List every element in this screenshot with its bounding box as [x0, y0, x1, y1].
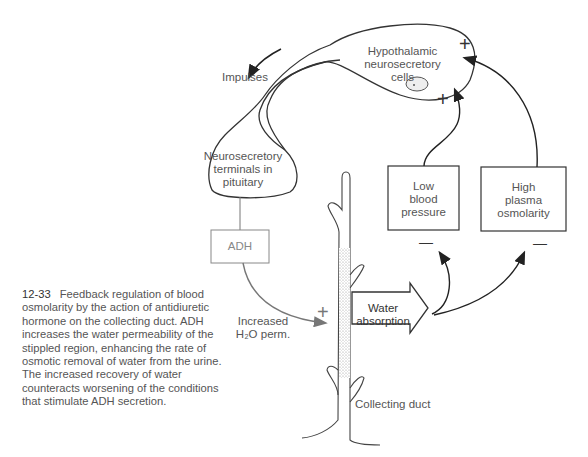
- figure-caption: 12-33 Feedback regulation of blood osmol…: [22, 288, 227, 409]
- stippled-region: [339, 248, 350, 378]
- terminals-line-3: pituitary: [203, 176, 283, 189]
- plus-sign-adh: +: [317, 302, 329, 322]
- hypothalamic-label: Hypothalamic neurosecretory cells: [345, 45, 460, 84]
- caption-text: Feedback regulation of blood osmolarity …: [22, 288, 222, 407]
- low-bp-line-2: blood: [388, 193, 459, 206]
- hypothalamic-line-2: neurosecretory: [345, 58, 460, 71]
- minus-sign-low-bp: —: [419, 232, 433, 252]
- increased-perm-line-1: Increased: [228, 315, 298, 328]
- adh-arrow: [243, 263, 325, 323]
- low-bp-line-3: pressure: [388, 206, 459, 219]
- water-absorption-line-2: absorption: [352, 315, 414, 328]
- impulses-label: Impulses: [222, 71, 268, 84]
- terminals-line-1: Neurosecretory: [203, 150, 283, 163]
- low-bp-label: Low blood pressure: [388, 180, 459, 219]
- figure-number: 12-33: [22, 288, 51, 300]
- high-osm-label: High plasma osmolarity: [481, 181, 566, 220]
- hypothalamic-line-3: cells: [345, 71, 460, 84]
- adh-label: ADH: [211, 240, 269, 253]
- high-osm-line-3: osmolarity: [481, 207, 566, 220]
- water-absorption-line-1: Water: [352, 302, 414, 315]
- plus-sign-low-bp: +: [437, 89, 449, 109]
- terminals-label: Neurosecretory terminals in pituitary: [203, 150, 283, 189]
- increased-perm-label: Increased H₂O perm.: [228, 315, 298, 341]
- minus-sign-high-osm: —: [533, 233, 547, 253]
- high-osm-line-2: plasma: [481, 194, 566, 207]
- collecting-duct-label: Collecting duct: [355, 398, 430, 411]
- low-bp-line-1: Low: [388, 180, 459, 193]
- water-absorption-label: Water absorption: [352, 302, 414, 328]
- increased-perm-line-2: H₂O perm.: [228, 328, 298, 341]
- hypothalamic-line-1: Hypothalamic: [345, 45, 460, 58]
- plus-sign-high-osm: +: [459, 34, 471, 54]
- high-osm-line-1: High: [481, 181, 566, 194]
- terminals-line-2: terminals in: [203, 163, 283, 176]
